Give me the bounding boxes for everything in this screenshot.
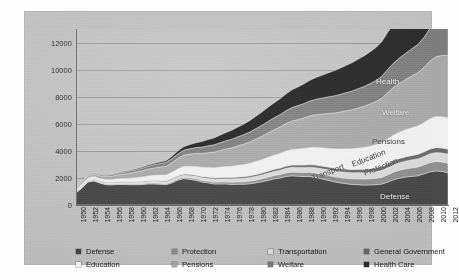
legend-item-general-government[interactable]: General Government bbox=[364, 247, 445, 256]
legend-item-health-care[interactable]: Health Care bbox=[364, 260, 415, 269]
legend-label: Defense bbox=[86, 247, 114, 256]
legend-label: General Government bbox=[374, 247, 445, 256]
legend-swatch-icon bbox=[76, 262, 81, 267]
y-tick-label: 6000 bbox=[26, 120, 72, 129]
x-tick-label: 1962 bbox=[152, 207, 159, 223]
legend-swatch-icon bbox=[268, 249, 273, 254]
x-tick-label: 1998 bbox=[368, 207, 375, 223]
x-tick-label: 1988 bbox=[308, 207, 315, 223]
series-label-health: Health bbox=[376, 77, 399, 86]
legend-swatch-icon bbox=[172, 262, 177, 267]
legend-label: Transportation bbox=[278, 247, 327, 256]
legend-item-protection[interactable]: Protection bbox=[172, 247, 216, 256]
chart-legend: DefenseProtectionTransportationGeneral G… bbox=[76, 247, 456, 273]
legend-item-pensions[interactable]: Pensions bbox=[172, 260, 213, 269]
y-tick-label: 0 bbox=[26, 201, 72, 210]
x-tick-label: 1964 bbox=[164, 207, 171, 223]
y-tick-label: 10000 bbox=[26, 66, 72, 75]
x-tick-label: 1992 bbox=[332, 207, 339, 223]
y-tick-label: 12000 bbox=[26, 39, 72, 48]
x-tick-label: 2010 bbox=[440, 207, 447, 223]
series-label-defense: Defense bbox=[380, 192, 410, 201]
x-tick-label: 1974 bbox=[224, 207, 231, 223]
legend-label: Welfare bbox=[278, 260, 304, 269]
legend-label: Education bbox=[86, 260, 120, 269]
x-tick-label: 2004 bbox=[404, 207, 411, 223]
x-tick-label: 2006 bbox=[416, 207, 423, 223]
x-tick-label: 1980 bbox=[260, 207, 267, 223]
legend-label: Health Care bbox=[374, 260, 415, 269]
x-axis: 1950195219541956195819601962196419661968… bbox=[76, 207, 448, 243]
x-tick-label: 1958 bbox=[128, 207, 135, 223]
legend-row: DefenseProtectionTransportationGeneral G… bbox=[76, 247, 456, 259]
legend-item-welfare[interactable]: Welfare bbox=[268, 260, 304, 269]
x-tick-label: 2012 bbox=[452, 207, 459, 223]
legend-row: EducationPensionsWelfareHealth Care bbox=[76, 260, 456, 272]
x-tick-label: 1996 bbox=[356, 207, 363, 223]
x-tick-label: 1956 bbox=[116, 207, 123, 223]
y-tick-label: 8000 bbox=[26, 93, 72, 102]
legend-item-defense[interactable]: Defense bbox=[76, 247, 114, 256]
legend-label: Pensions bbox=[182, 260, 213, 269]
legend-swatch-icon bbox=[76, 249, 81, 254]
legend-item-education[interactable]: Education bbox=[76, 260, 120, 269]
x-tick-label: 1990 bbox=[320, 207, 327, 223]
legend-swatch-icon bbox=[172, 249, 177, 254]
x-tick-label: 1968 bbox=[188, 207, 195, 223]
x-tick-label: 1952 bbox=[92, 207, 99, 223]
x-tick-label: 2002 bbox=[392, 207, 399, 223]
x-tick-label: 1966 bbox=[176, 207, 183, 223]
series-label-welfare: Welfare bbox=[382, 108, 409, 117]
x-tick-label: 1954 bbox=[104, 207, 111, 223]
x-tick-label: 1950 bbox=[80, 207, 87, 223]
x-tick-label: 1984 bbox=[284, 207, 291, 223]
legend-label: Protection bbox=[182, 247, 216, 256]
y-axis: 020004000600080001000012000 bbox=[24, 29, 72, 205]
x-tick-label: 1960 bbox=[140, 207, 147, 223]
x-tick-label: 1986 bbox=[296, 207, 303, 223]
x-tick-label: 2000 bbox=[380, 207, 387, 223]
x-tick-label: 1978 bbox=[248, 207, 255, 223]
legend-swatch-icon bbox=[364, 249, 369, 254]
y-tick-label: 4000 bbox=[26, 147, 72, 156]
legend-swatch-icon bbox=[268, 262, 273, 267]
x-tick-label: 1972 bbox=[212, 207, 219, 223]
legend-swatch-icon bbox=[364, 262, 369, 267]
x-tick-label: 1982 bbox=[272, 207, 279, 223]
y-tick-label: 2000 bbox=[26, 174, 72, 183]
x-tick-label: 1994 bbox=[344, 207, 351, 223]
figure-panel: 020004000600080001000012000 HealthWelfar… bbox=[24, 11, 432, 265]
legend-item-transportation[interactable]: Transportation bbox=[268, 247, 327, 256]
x-tick-label: 2008 bbox=[428, 207, 435, 223]
x-tick-label: 1976 bbox=[236, 207, 243, 223]
series-label-pensions: Pensions bbox=[372, 137, 405, 146]
x-tick-label: 1970 bbox=[200, 207, 207, 223]
